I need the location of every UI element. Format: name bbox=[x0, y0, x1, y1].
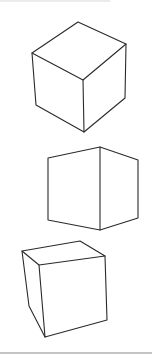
middle-cube bbox=[48, 147, 138, 230]
cubes-diagram bbox=[0, 0, 152, 364]
top-cube bbox=[32, 22, 126, 132]
bottom-cube bbox=[22, 241, 107, 337]
